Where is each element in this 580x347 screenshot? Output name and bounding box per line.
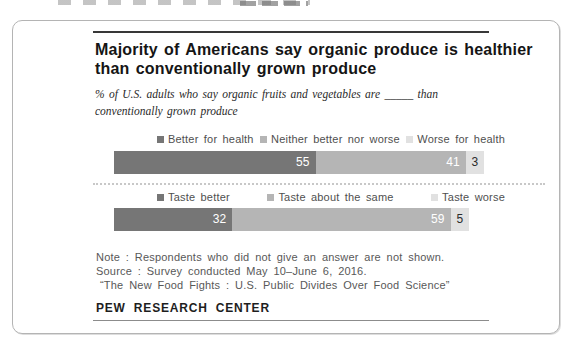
bar-segment-worse-for-health: 3 — [466, 151, 484, 174]
bar-value-label: 55 — [296, 151, 310, 174]
legend-item-neither-better-nor-worse: Neither better nor worse — [260, 133, 400, 145]
cropped-print-text-fragment — [240, 1, 308, 6]
legend-swatch-icon — [406, 136, 413, 143]
card-content: Majority of Americans say organic produc… — [13, 31, 559, 321]
dotted-divider — [93, 183, 545, 185]
bar-segment-taste-worse: 5 — [451, 208, 470, 231]
legend-swatch-icon — [157, 136, 164, 143]
legend-item-taste-about-the-same: Taste about the same — [267, 191, 393, 203]
legend-label: Neither better nor worse — [271, 133, 400, 145]
chart-title-line2: than conventionally grown produce — [95, 59, 545, 78]
bar-segment-taste-about-the-same: 59 — [232, 208, 450, 231]
legend-label: Taste worse — [442, 191, 505, 203]
pew-research-center-wordmark: PEW RESEARCH CENTER — [96, 301, 545, 315]
chart-title: Majority of Americans say organic produc… — [95, 40, 545, 78]
legend-row-health: Better for health Neither better nor wor… — [157, 133, 505, 145]
chart-title-line1: Majority of Americans say organic produc… — [95, 40, 545, 59]
top-rule — [93, 31, 489, 33]
chart-subtitle-line2: conventionally grown produce — [95, 103, 545, 120]
bar-value-label: 59 — [431, 208, 445, 231]
chart-card: Majority of Americans say organic produc… — [12, 20, 560, 334]
bar-segment-taste-better: 32 — [114, 208, 232, 231]
chart-subtitle: % of U.S. adults who say organic fruits … — [95, 86, 545, 120]
legend-row-taste: Taste better Taste about the same Taste … — [157, 191, 505, 203]
bar-value-label: 41 — [446, 151, 460, 174]
legend-item-better-for-health: Better for health — [157, 133, 254, 145]
bar-segment-better-for-health: 55 — [114, 151, 316, 174]
legend-label: Worse for health — [417, 133, 505, 145]
legend-item-taste-better: Taste better — [157, 191, 230, 203]
report-title-line: “The New Food Fights : U.S. Public Divid… — [96, 278, 545, 292]
legend-item-worse-for-health: Worse for health — [406, 133, 505, 145]
legend-label: Better for health — [168, 133, 254, 145]
note-line: Note : Respondents who did not give an a… — [96, 250, 545, 264]
legend-label: Taste about the same — [278, 191, 393, 203]
notes-block: Note : Respondents who did not give an a… — [96, 250, 545, 292]
chart-subtitle-line1: % of U.S. adults who say organic fruits … — [95, 86, 545, 103]
bar-value-label: 5 — [457, 208, 464, 231]
bottom-rule — [93, 320, 489, 321]
bar-segment-neither-better-nor-worse: 41 — [316, 151, 466, 174]
stacked-bar-taste: 32 59 5 — [114, 208, 484, 231]
source-line: Source : Survey conducted May 10–June 6,… — [96, 264, 545, 278]
bar-value-label: 3 — [472, 151, 479, 174]
legend-swatch-icon — [157, 194, 164, 201]
bar-value-label: 32 — [213, 208, 227, 231]
legend-label: Taste better — [168, 191, 230, 203]
legend-swatch-icon — [431, 194, 438, 201]
page: Majority of Americans say organic produc… — [0, 0, 580, 347]
stacked-bar-health: 55 41 3 — [114, 151, 484, 174]
legend-swatch-icon — [260, 136, 267, 143]
legend-swatch-icon — [267, 194, 274, 201]
legend-item-taste-worse: Taste worse — [431, 191, 505, 203]
